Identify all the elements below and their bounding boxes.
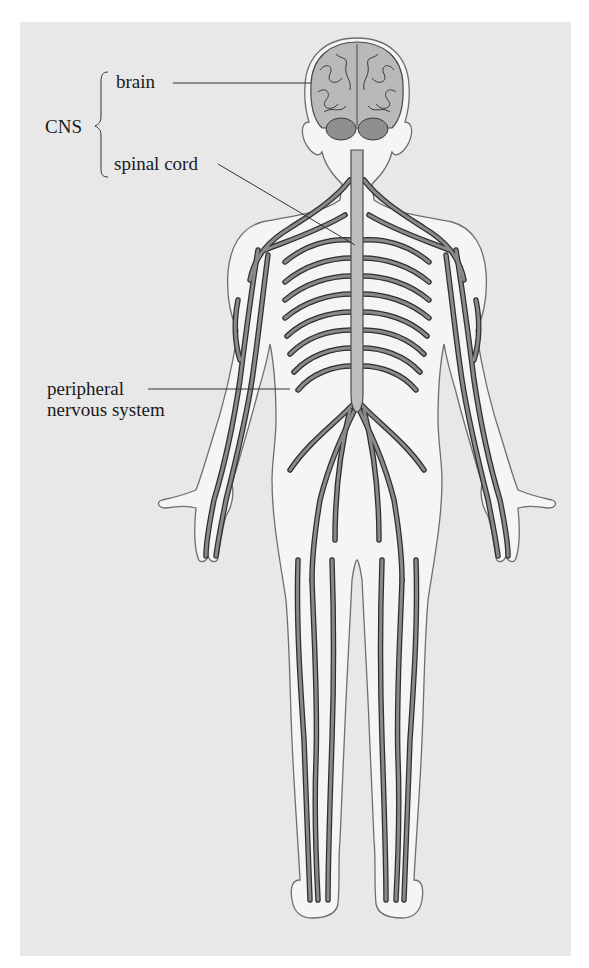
label-cns: CNS [45,116,82,137]
spinal-cord [351,150,363,412]
cns-bracket [95,72,108,177]
label-pns-line2: nervous system [47,399,165,420]
label-pns-line1: peripheral [47,378,124,399]
brain [311,42,403,140]
label-brain: brain [116,71,155,92]
nervous-system-figure [0,0,589,968]
label-spinal-cord: spinal cord [114,153,198,174]
